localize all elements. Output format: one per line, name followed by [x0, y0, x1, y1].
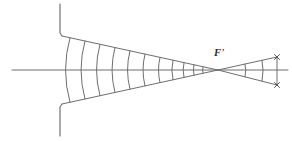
optics-figure: F' [0, 0, 292, 141]
ray-diagram-canvas: F' [0, 0, 292, 141]
aperture-stop-upper [60, 4, 62, 36]
diverging-lower-ray [218, 70, 277, 85]
focal-point-label: F' [213, 47, 224, 58]
diverging-upper-ray [218, 57, 277, 70]
wavefront-arc [262, 60, 263, 81]
aperture-stop-lower [60, 104, 62, 136]
